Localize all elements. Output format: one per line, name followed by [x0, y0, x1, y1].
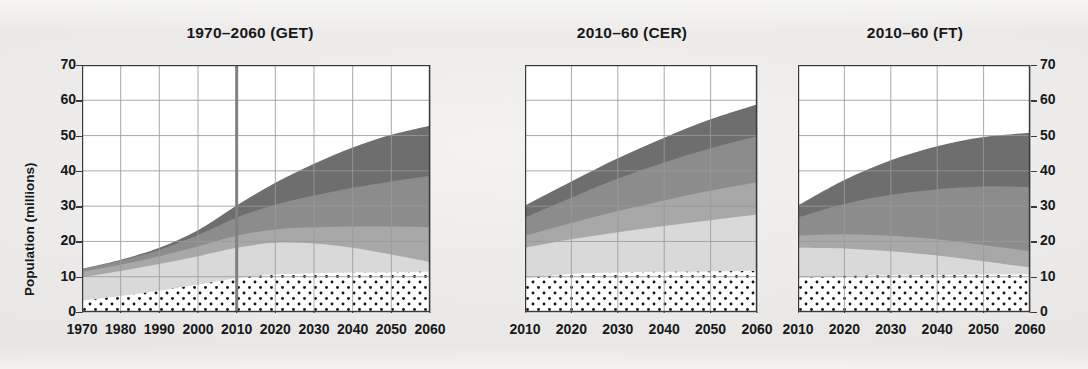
y-tickmark-left-70 — [76, 65, 82, 66]
x-tick-label-1-2030: 2030 — [599, 321, 637, 337]
x-tick-label-1-2060: 2060 — [738, 321, 776, 337]
panel-title-cer: 2010–60 (CER) — [482, 24, 782, 42]
panel-cer: 2010–60 (CER) — [482, 0, 782, 369]
x-tick-label-1-2010: 2010 — [506, 321, 544, 337]
y-tickmark-left-30 — [76, 206, 82, 207]
plot-area-get — [82, 65, 431, 313]
y-tickmark-right-60 — [1031, 100, 1037, 101]
chart-svg-0 — [82, 65, 431, 313]
chart-svg-2 — [798, 65, 1031, 313]
x-tick-label-2-2050: 2050 — [965, 321, 1003, 337]
y-tick-right-70: 70 — [1040, 56, 1070, 72]
y-tickmark-right-0 — [1031, 312, 1037, 313]
x-tick-label-0-2020: 2020 — [256, 321, 294, 337]
plot-area-ft — [798, 65, 1031, 313]
y-tickmark-right-10 — [1031, 277, 1037, 278]
x-tick-label-0-1980: 1980 — [102, 321, 140, 337]
y-tickmark-left-40 — [76, 171, 82, 172]
y-tickmark-left-50 — [76, 136, 82, 137]
x-tick-label-2-2030: 2030 — [872, 321, 910, 337]
y-tick-right-40: 40 — [1040, 162, 1070, 178]
y-tickmark-right-30 — [1031, 206, 1037, 207]
y-tickmark-right-50 — [1031, 136, 1037, 137]
x-tick-label-1-2050: 2050 — [692, 321, 730, 337]
x-tick-label-2-2060: 2060 — [1011, 321, 1049, 337]
x-tick-label-0-1990: 1990 — [140, 321, 178, 337]
y-tickmark-left-0 — [76, 312, 82, 313]
x-tick-label-0-2050: 2050 — [372, 321, 410, 337]
y-axis-label: Population (millions) — [22, 163, 37, 297]
area-layer-1-dotted — [525, 271, 757, 312]
y-tick-right-30: 30 — [1040, 197, 1070, 213]
x-tick-label-0-1970: 1970 — [63, 321, 101, 337]
x-tick-label-2-2010: 2010 — [779, 321, 817, 337]
x-tick-label-1-2020: 2020 — [552, 321, 590, 337]
y-tickmark-left-10 — [76, 277, 82, 278]
y-tick-right-60: 60 — [1040, 91, 1070, 107]
panel-title-ft: 2010–60 (FT) — [790, 24, 1040, 42]
x-tick-label-0-2010: 2010 — [218, 321, 256, 337]
x-tick-label-0-2000: 2000 — [179, 321, 217, 337]
chart-svg-1 — [525, 65, 758, 313]
y-tickmark-left-20 — [76, 241, 82, 242]
figure-root: Population (millions) 010203040506070 01… — [0, 0, 1088, 369]
panel-title-get: 1970–2060 (GET) — [55, 24, 445, 42]
y-tick-right-10: 10 — [1040, 268, 1070, 284]
y-tickmark-right-40 — [1031, 171, 1037, 172]
y-tickmark-right-20 — [1031, 241, 1037, 242]
panel-ft: 2010–60 (FT) — [790, 0, 1040, 369]
x-tick-label-0-2030: 2030 — [295, 321, 333, 337]
y-tickmark-left-60 — [76, 100, 82, 101]
y-tickmark-right-70 — [1031, 65, 1037, 66]
panel-get: 1970–2060 (GET) — [55, 0, 445, 369]
y-tick-right-0: 0 — [1040, 303, 1070, 319]
x-tick-label-0-2040: 2040 — [334, 321, 372, 337]
x-tick-label-0-2060: 2060 — [411, 321, 449, 337]
x-tick-label-2-2020: 2020 — [825, 321, 863, 337]
plot-area-cer — [525, 65, 758, 313]
x-tick-label-2-2040: 2040 — [918, 321, 956, 337]
x-tick-label-1-2040: 2040 — [645, 321, 683, 337]
area-layer-1-dotted — [798, 275, 1030, 312]
y-tick-right-20: 20 — [1040, 232, 1070, 248]
y-tick-right-50: 50 — [1040, 127, 1070, 143]
